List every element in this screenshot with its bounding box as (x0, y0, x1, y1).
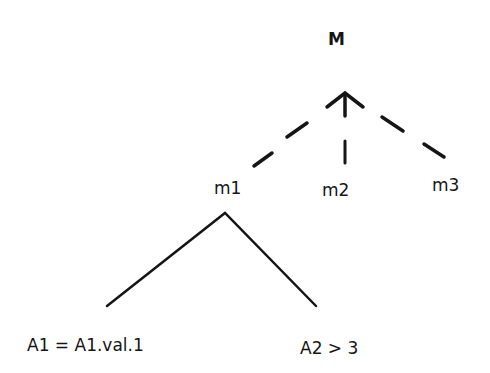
edge-root-m1 (254, 123, 307, 166)
leaf-label-condition-2: A2 > 3 (300, 340, 358, 357)
root-node-label: M (328, 31, 345, 48)
edge-m1-children (107, 213, 316, 306)
edge-root-m3 (382, 117, 444, 157)
leaf-label-condition-1: A1 = A1.val.1 (27, 337, 144, 354)
tree-diagram (0, 0, 490, 373)
node-label-m3: m3 (432, 177, 459, 194)
node-label-m2: m2 (322, 182, 349, 199)
arrow-up-icon (327, 93, 363, 116)
node-label-m1: m1 (214, 180, 241, 197)
